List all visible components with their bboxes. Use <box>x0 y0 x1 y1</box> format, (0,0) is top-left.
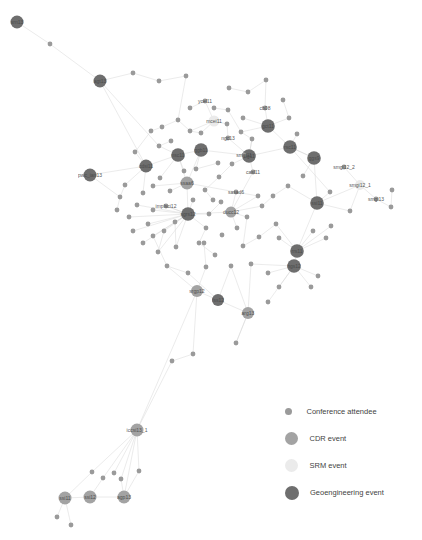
graph-node-attendee[interactable] <box>141 191 146 196</box>
graph-node-attendee[interactable] <box>48 42 53 47</box>
graph-node-attendee[interactable] <box>207 212 212 217</box>
graph-node-attendee[interactable] <box>199 131 204 136</box>
graph-node-attendee[interactable] <box>220 233 225 238</box>
graph-node-attendee[interactable] <box>173 220 178 225</box>
graph-node-attendee[interactable] <box>241 116 246 121</box>
graph-node-attendee[interactable] <box>295 132 300 137</box>
graph-node-attendee[interactable] <box>118 195 123 200</box>
graph-node-attendee[interactable] <box>101 476 106 481</box>
graph-node-attendee[interactable] <box>281 98 286 103</box>
graph-node-attendee[interactable] <box>204 265 209 270</box>
graph-node-attendee[interactable] <box>112 471 117 476</box>
graph-node-attendee[interactable] <box>168 189 173 194</box>
graph-node-attendee[interactable] <box>127 215 132 220</box>
graph-node-attendee[interactable] <box>176 118 181 123</box>
graph-node-attendee[interactable] <box>211 198 216 203</box>
graph-node-attendee[interactable] <box>241 244 246 249</box>
graph-node-attendee[interactable] <box>250 137 255 142</box>
graph-node-attendee[interactable] <box>151 234 156 239</box>
graph-node-attendee[interactable] <box>165 264 170 269</box>
graph-node-attendee[interactable] <box>131 229 136 234</box>
graph-node-attendee[interactable] <box>131 71 136 76</box>
graph-node-attendee[interactable] <box>191 198 196 203</box>
graph-node-attendee[interactable] <box>266 271 271 276</box>
graph-node-attendee[interactable] <box>156 250 161 255</box>
graph-node-attendee[interactable] <box>170 359 175 364</box>
graph-node-attendee[interactable] <box>286 184 291 189</box>
graph-node-attendee[interactable] <box>245 215 250 220</box>
graph-node-attendee[interactable] <box>309 285 314 290</box>
graph-node-attendee[interactable] <box>204 226 209 231</box>
legend-item[interactable]: CDR event <box>283 425 418 452</box>
graph-node-attendee[interactable] <box>169 139 174 144</box>
graph-node-attendee[interactable] <box>348 209 353 214</box>
graph-node-attendee[interactable] <box>328 190 333 195</box>
graph-node-attendee[interactable] <box>235 226 240 231</box>
graph-node-attendee[interactable] <box>249 262 254 267</box>
graph-node-attendee[interactable] <box>239 130 244 135</box>
graph-node-attendee[interactable] <box>274 222 279 227</box>
graph-node-attendee[interactable] <box>123 183 128 188</box>
graph-node-attendee[interactable] <box>182 169 187 174</box>
graph-edge <box>283 100 289 118</box>
graph-node-attendee[interactable] <box>329 224 334 229</box>
graph-node-attendee[interactable] <box>389 205 394 210</box>
graph-node-attendee[interactable] <box>390 188 395 193</box>
graph-node-attendee[interactable] <box>146 222 151 227</box>
graph-node-attendee[interactable] <box>227 86 232 91</box>
graph-node-attendee[interactable] <box>219 200 224 205</box>
graph-node-attendee[interactable] <box>151 184 156 189</box>
graph-node-attendee[interactable] <box>225 122 230 127</box>
graph-node-attendee[interactable] <box>90 470 95 475</box>
graph-node-attendee[interactable] <box>157 79 162 84</box>
graph-node-attendee[interactable] <box>316 274 321 279</box>
graph-node-attendee[interactable] <box>212 106 217 111</box>
graph-node-attendee[interactable] <box>216 161 221 166</box>
graph-node-attendee[interactable] <box>229 264 234 269</box>
graph-node-attendee[interactable] <box>188 106 193 111</box>
graph-node-attendee[interactable] <box>160 125 165 130</box>
graph-node-attendee[interactable] <box>203 188 208 193</box>
graph-node-attendee[interactable] <box>217 175 222 180</box>
graph-node-attendee[interactable] <box>158 176 163 181</box>
graph-node-attendee[interactable] <box>287 116 292 121</box>
graph-node-attendee[interactable] <box>277 236 282 241</box>
graph-node-attendee[interactable] <box>69 523 74 528</box>
graph-node-attendee[interactable] <box>301 174 306 179</box>
graph-node-attendee[interactable] <box>234 341 239 346</box>
graph-node-attendee[interactable] <box>266 300 271 305</box>
graph-node-attendee[interactable] <box>264 78 269 83</box>
graph-node-attendee[interactable] <box>311 229 316 234</box>
graph-node-attendee[interactable] <box>197 241 202 246</box>
graph-node-attendee[interactable] <box>135 203 140 208</box>
graph-node-attendee[interactable] <box>133 150 138 155</box>
graph-node-attendee[interactable] <box>260 204 265 209</box>
graph-node-attendee[interactable] <box>174 245 179 250</box>
graph-node-attendee[interactable] <box>202 241 207 246</box>
graph-node-attendee[interactable] <box>277 285 282 290</box>
graph-node-attendee[interactable] <box>194 167 199 172</box>
graph-node-attendee[interactable] <box>162 229 167 234</box>
graph-node-attendee[interactable] <box>184 74 189 79</box>
graph-node-attendee[interactable] <box>246 90 251 95</box>
graph-node-attendee[interactable] <box>257 235 262 240</box>
graph-node-attendee[interactable] <box>137 469 142 474</box>
graph-node-attendee[interactable] <box>213 253 218 258</box>
legend-item[interactable]: Geoengineering event <box>283 479 418 506</box>
legend-item[interactable]: SRM event <box>283 452 418 479</box>
graph-node-attendee[interactable] <box>226 108 231 113</box>
graph-node-attendee[interactable] <box>188 129 193 134</box>
graph-node-attendee[interactable] <box>141 241 146 246</box>
graph-node-attendee[interactable] <box>256 194 261 199</box>
graph-node-attendee[interactable] <box>271 194 276 199</box>
graph-node-attendee[interactable] <box>149 129 154 134</box>
graph-node-attendee[interactable] <box>324 236 329 241</box>
graph-node-attendee[interactable] <box>119 477 124 482</box>
legend-item[interactable]: Conference attendee <box>283 398 418 425</box>
graph-node-attendee[interactable] <box>115 208 120 213</box>
graph-node-attendee[interactable] <box>191 352 196 357</box>
graph-node-attendee[interactable] <box>55 515 60 520</box>
graph-node-attendee[interactable] <box>230 162 235 167</box>
graph-node-attendee[interactable] <box>157 144 162 149</box>
graph-node-attendee[interactable] <box>186 271 191 276</box>
